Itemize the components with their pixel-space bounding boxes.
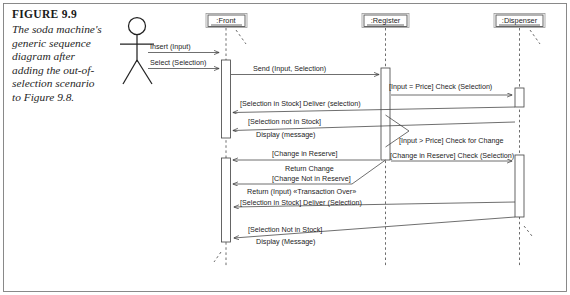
activation-dispenser-1 (515, 88, 524, 107)
message-label-display-message-upper: Display (message) (256, 130, 316, 139)
message-label-not-in-stock-upper: [Selection not in Stock] (248, 117, 321, 126)
activation-front-1 (222, 60, 231, 138)
activation-dispenser-2 (515, 155, 524, 217)
message-select-selection: Select (Selection) (148, 58, 219, 69)
lifeline-dispenser-head-tail (530, 30, 540, 44)
activation-front-2 (222, 158, 231, 242)
message-deliver-selection-upper: [Selection in Stock] Deliver (selection) (233, 99, 515, 113)
lifeline-front-tail (214, 252, 221, 262)
dispenser-box-label: :Dispenser (502, 16, 538, 25)
message-label-return-change: Return Change (285, 164, 334, 173)
register-box-label: :Register (371, 16, 401, 25)
message-label-return-transaction-over: Return (Input) «Transaction Over» (247, 187, 356, 196)
message-label-select-selection: Select (Selection) (150, 58, 206, 67)
lifeline-dispenser-tail (524, 226, 532, 236)
figure-border (4, 4, 567, 292)
lifeline-header-dispenser[interactable]: :Dispenser (494, 14, 545, 28)
front-box-label: :Front (216, 16, 235, 25)
message-check-for-change-self: [Input > Price] Check for Change (386, 115, 504, 147)
message-change-in-reserve-check: [Change in Reserve] Check (Selection) (390, 151, 514, 161)
message-label-change-not-in-reserve: [Change Not in Reserve] (272, 174, 351, 183)
figure-page: FIGURE 9.9 The soda machine's generic se… (0, 0, 570, 295)
message-label-check-selection: [Input = Price] Check (Selection) (389, 82, 492, 91)
message-label-insert-input: Insert (Input) (150, 42, 191, 51)
message-label-change-reserve-check: [Change in Reserve] Check (Selection) (390, 151, 514, 160)
message-change-in-reserve: [Change in Reserve] (233, 149, 380, 160)
actor-head-icon (129, 18, 146, 35)
message-label-display-message-lower: Display (Message) (256, 237, 316, 246)
message-label-send: Send (Input, Selection) (253, 64, 326, 73)
message-label-not-in-stock-lower: [Selection Not in Stock] (248, 225, 322, 234)
message-label-deliver-upper: [Selection in Stock] Deliver (selection) (240, 99, 361, 108)
sequence-diagram-canvas: :Front :Register :Dispenser (0, 0, 570, 295)
message-check-selection: [Input = Price] Check (Selection) (389, 82, 512, 95)
lifeline-front-head-tail (236, 30, 246, 44)
message-insert-input: Insert (Input) (148, 42, 219, 53)
message-deliver-selection-lower: [Selection in Stock] Deliver (Selection) (234, 198, 515, 207)
lifeline-header-register[interactable]: :Register (362, 14, 409, 28)
actor-leg-left (123, 60, 137, 84)
message-label-deliver-lower: [Selection in Stock] Deliver (Selection) (240, 198, 362, 207)
message-label-check-for-change: [Input > Price] Check for Change (399, 136, 503, 145)
lifeline-header-front[interactable]: :Front (206, 14, 247, 28)
message-return-change: Return Change (285, 164, 334, 173)
actor-stick-figure (120, 18, 154, 85)
message-send-input-selection: Send (Input, Selection) (231, 64, 379, 75)
message-label-change-in-reserve: [Change in Reserve] (272, 149, 338, 158)
message-selection-not-in-stock-lower: [Selection Not in Stock] Display (Messag… (234, 217, 515, 246)
